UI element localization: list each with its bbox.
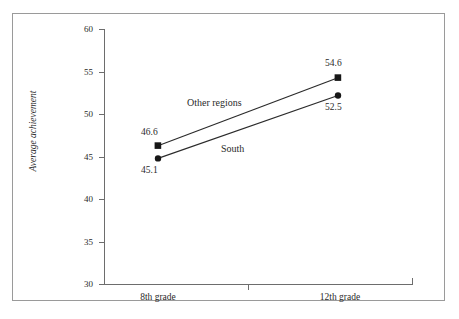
x-tick-label-12th-grade: 12th grade (303, 293, 377, 303)
marker-south-8th (155, 155, 161, 161)
series-line-other-regions (158, 78, 338, 146)
y-tick-label-35: 35 (67, 238, 93, 247)
y-tick-label-45: 45 (67, 153, 93, 162)
point-label-other-regions-8th: 46.6 (141, 128, 158, 138)
series-annotation-south: South (221, 144, 244, 154)
figure-caption (14, 306, 445, 317)
figure-root: 60 55 50 45 40 35 30 Average achievement… (0, 0, 459, 319)
y-tick-label-30: 30 (67, 280, 93, 289)
y-axis-title: Average achievement (28, 71, 38, 191)
marker-other-regions-12th (335, 74, 342, 81)
series-line-south (158, 96, 338, 159)
y-tick-label-60: 60 (67, 25, 93, 34)
point-label-south-8th: 45.1 (141, 166, 158, 176)
y-tick-label-50: 50 (67, 110, 93, 119)
marker-other-regions-8th (155, 142, 162, 149)
marker-south-12th (335, 92, 341, 98)
x-tick-label-8th-grade: 8th grade (123, 293, 193, 303)
point-label-other-regions-12th: 54.6 (325, 59, 342, 69)
y-tick-label-40: 40 (67, 195, 93, 204)
series-annotation-other-regions: Other regions (187, 98, 242, 108)
figure-frame: 60 55 50 45 40 35 30 Average achievement… (12, 13, 445, 301)
point-label-south-12th: 52.5 (325, 103, 342, 113)
plot-area: 60 55 50 45 40 35 30 Average achievement… (13, 14, 446, 302)
y-tick-label-55: 55 (67, 68, 93, 77)
